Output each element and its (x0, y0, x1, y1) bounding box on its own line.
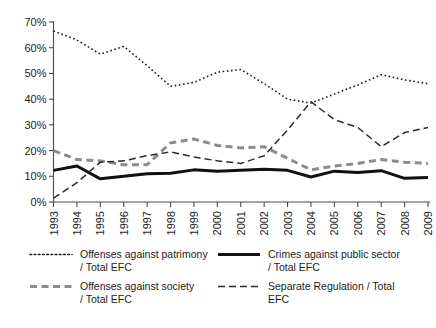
x-axis: 1993199419951996199719981999200020012002… (48, 202, 435, 235)
legend-label-line1: Crimes against public sector (268, 248, 400, 260)
x-tick-label: 1997 (141, 211, 153, 235)
x-tick-label: 2000 (211, 211, 223, 235)
y-tick-label: 70% (24, 16, 46, 28)
y-axis-tick-labels: 0%10%20%30%40%50%60%70% (24, 16, 46, 208)
series-line-2 (54, 166, 429, 179)
y-tick-label: 50% (24, 67, 46, 79)
line-chart-figure: 0%10%20%30%40%50%60%70% 1993199419951996… (0, 0, 436, 328)
y-tick-label: 30% (24, 119, 46, 131)
series-line-1 (54, 31, 429, 103)
legend-label-line2: / Total EFC (268, 261, 320, 273)
y-tick-label: 40% (24, 93, 46, 105)
x-tick-label: 2008 (399, 211, 411, 235)
x-tick-label: 2007 (375, 211, 387, 235)
legend-item: Offenses against patrimony/ Total EFC (30, 248, 208, 273)
x-tick-label: 1996 (118, 211, 130, 235)
y-axis-ticks (49, 22, 54, 202)
legend-label-line2: EFC (268, 293, 289, 305)
x-tick-label: 2002 (258, 211, 270, 235)
series-line-3 (54, 139, 429, 170)
x-tick-label: 2004 (305, 211, 317, 235)
chart-canvas: 0%10%20%30%40%50%60%70% 1993199419951996… (0, 0, 436, 328)
x-tick-label: 2001 (235, 211, 247, 235)
legend-label-line2: / Total EFC (80, 261, 132, 273)
y-tick-label: 20% (24, 145, 46, 157)
y-tick-label: 60% (24, 42, 46, 54)
y-tick-label: 10% (24, 170, 46, 182)
x-axis-ticks (54, 202, 429, 207)
x-tick-label: 1995 (94, 211, 106, 235)
x-tick-label: 2005 (328, 211, 340, 235)
x-axis-tick-labels: 1993199419951996199719981999200020012002… (48, 211, 435, 235)
series-line-4 (54, 102, 429, 198)
x-tick-label: 1999 (188, 211, 200, 235)
x-tick-label: 1993 (48, 211, 60, 235)
chart-legend: Offenses against patrimony/ Total EFCCri… (30, 248, 400, 305)
x-tick-label: 2006 (352, 211, 364, 235)
legend-label-line2: / Total EFC (80, 293, 132, 305)
legend-item: Crimes against public sector/ Total EFC (218, 248, 400, 273)
x-tick-label: 1994 (71, 211, 83, 235)
y-tick-label: 0% (31, 196, 47, 208)
x-tick-label: 2003 (282, 211, 294, 235)
legend-label-line1: Separate Regulation / Total (268, 280, 394, 292)
legend-label-line1: Offenses against society (80, 280, 195, 292)
data-series-group (54, 31, 429, 198)
legend-label-line1: Offenses against patrimony (80, 248, 208, 260)
y-axis: 0%10%20%30%40%50%60%70% (24, 16, 53, 208)
x-tick-label: 1998 (165, 211, 177, 235)
legend-item: Offenses against society/ Total EFC (30, 280, 195, 305)
legend-item: Separate Regulation / TotalEFC (218, 280, 394, 305)
x-tick-label: 2009 (422, 211, 434, 235)
